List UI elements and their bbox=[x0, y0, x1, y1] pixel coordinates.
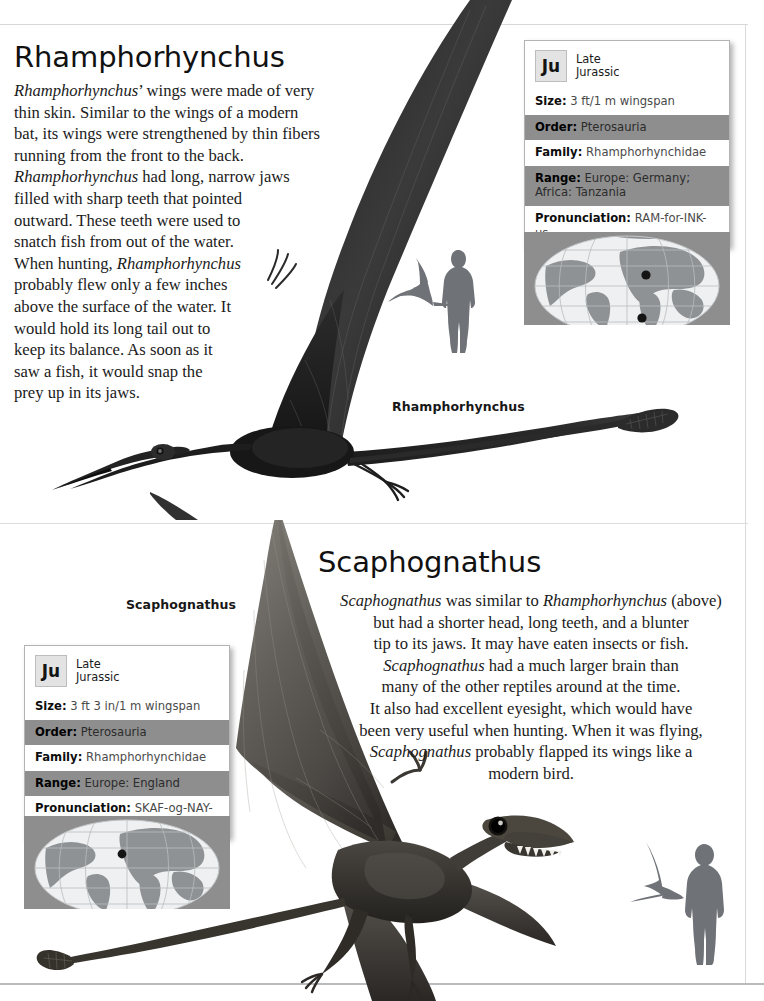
text-line: probably flew only a few inches bbox=[14, 274, 336, 296]
row-label: Size: bbox=[535, 94, 567, 108]
text-line: snatch fish from out of the water. bbox=[14, 231, 336, 253]
row-value: Europe: England bbox=[85, 776, 180, 790]
range-marker-germany bbox=[641, 270, 650, 279]
text-line: Rhamphorhynchus’ wings were made of very bbox=[14, 80, 336, 102]
row-label: Family: bbox=[535, 145, 582, 159]
text-line: filled with sharp teeth that pointed bbox=[14, 188, 336, 210]
infobox-row-range: Range: Europe: England bbox=[25, 771, 229, 797]
text-line: It also had excellent eyesight, which wo… bbox=[335, 698, 727, 720]
range-marker-england bbox=[118, 850, 127, 859]
row-label: Range: bbox=[535, 171, 581, 185]
range-marker-tanzania bbox=[637, 313, 646, 322]
scaphognathus-description: Scaphognathus was similar to Rhamphorhyn… bbox=[335, 590, 727, 784]
row-label: Order: bbox=[535, 120, 577, 134]
infobox-row-size: Size: 3 ft 3 in/1 m wingspan bbox=[25, 694, 229, 720]
text-line: but had a shorter head, long teeth, and … bbox=[335, 612, 727, 634]
text-line: running from the front to the back. bbox=[14, 145, 336, 167]
row-label: Range: bbox=[35, 776, 81, 790]
period-badge: Ju bbox=[35, 655, 67, 687]
period-line-1: Late bbox=[576, 53, 620, 66]
text-line: many of the other reptiles around at the… bbox=[335, 676, 727, 698]
row-value: Rhamphorhynchidae bbox=[586, 145, 706, 159]
period-name: Late Jurassic bbox=[76, 658, 120, 685]
text-line: When hunting, Rhamphorhynchus bbox=[14, 253, 336, 275]
infobox-row-family: Family: Rhamphorhynchidae bbox=[25, 745, 229, 771]
row-label: Size: bbox=[35, 699, 67, 713]
infobox-row-order: Order: Pterosauria bbox=[25, 720, 229, 746]
text-line: Scaphognathus probably flapped its wings… bbox=[335, 741, 727, 763]
rhamphorhynchus-description: Rhamphorhynchus’ wings were made of very… bbox=[14, 80, 336, 404]
text-line: tip to its jaws. It may have eaten insec… bbox=[335, 633, 727, 655]
period-name: Late Jurassic bbox=[576, 53, 620, 80]
scaphognathus-range-map bbox=[24, 816, 230, 909]
row-value: 3 ft/1 m wingspan bbox=[570, 94, 675, 108]
row-label: Pronunciation: bbox=[35, 801, 131, 815]
infobox-period-header: Ju Late Jurassic bbox=[25, 646, 229, 694]
row-label: Family: bbox=[35, 750, 82, 764]
text-line: saw a fish, it would snap the bbox=[14, 361, 336, 383]
infobox-period-header: Ju Late Jurassic bbox=[525, 41, 729, 89]
infobox-row-family: Family: Rhamphorhynchidae bbox=[525, 140, 729, 166]
text-line: above the surface of the water. It bbox=[14, 296, 336, 318]
row-label: Order: bbox=[35, 725, 77, 739]
text-line: outward. These teeth were used to bbox=[14, 210, 336, 232]
period-line-2: Jurassic bbox=[576, 66, 620, 79]
row-label: Pronunciation: bbox=[535, 211, 631, 225]
page-title-scaphognathus: Scaphognathus bbox=[318, 545, 541, 579]
infobox-row-order: Order: Pterosauria bbox=[525, 115, 729, 141]
period-line-2: Jurassic bbox=[76, 671, 120, 684]
text-line: modern bird. bbox=[335, 763, 727, 785]
infobox-row-size: Size: 3 ft/1 m wingspan bbox=[525, 89, 729, 115]
text-line: would hold its long tail out to bbox=[14, 318, 336, 340]
row-value: Pterosauria bbox=[581, 120, 647, 134]
text-line: been very useful when hunting. When it w… bbox=[335, 720, 727, 742]
scaphognathus-artwork-caption: Scaphognathus bbox=[126, 597, 236, 612]
scaphognathus-infobox: Ju Late Jurassic Size: 3 ft 3 in/1 m win… bbox=[24, 645, 230, 838]
period-badge: Ju bbox=[535, 50, 567, 82]
page-title-rhamphorhynchus: Rhamphorhynchus bbox=[14, 40, 285, 74]
infobox-row-range: Range: Europe: Germany; Africa: Tanzania bbox=[525, 166, 729, 206]
encyclopedia-page: Rhamphorhynchus Rhamphorhynchus’ wings w… bbox=[0, 0, 764, 1001]
rhamphorhynchus-range-map bbox=[524, 232, 730, 325]
text-line: thin skin. Similar to the wings of a mod… bbox=[14, 102, 336, 124]
text-line: bat, its wings were strengthened by thin… bbox=[14, 123, 336, 145]
row-value: Pterosauria bbox=[81, 725, 147, 739]
rhamphorhynchus-infobox: Ju Late Jurassic Size: 3 ft/1 m wingspan… bbox=[524, 40, 730, 247]
text-line: prey up in its jaws. bbox=[14, 382, 336, 404]
text-line: Rhamphorhynchus had long, narrow jaws bbox=[14, 166, 336, 188]
rhamphorhynchus-scale-comparison bbox=[380, 240, 500, 365]
text-line: keep its balance. As soon as it bbox=[14, 339, 336, 361]
scaphognathus-scale-comparison bbox=[622, 830, 742, 965]
text-line: Scaphognathus had a much larger brain th… bbox=[335, 655, 727, 677]
row-value: 3 ft 3 in/1 m wingspan bbox=[70, 699, 200, 713]
row-value: Rhamphorhynchidae bbox=[86, 750, 206, 764]
text-line: Scaphognathus was similar to Rhamphorhyn… bbox=[335, 590, 727, 612]
period-line-1: Late bbox=[76, 658, 120, 671]
rhamphorhynchus-scale-caption: Rhamphorhynchus bbox=[392, 399, 525, 414]
right-margin-rule bbox=[745, 24, 746, 983]
